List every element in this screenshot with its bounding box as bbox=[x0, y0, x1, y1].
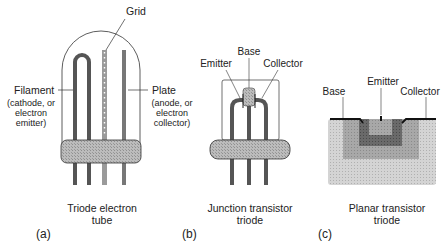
diagram-canvas: Grid Filament (cathode, or electron emit… bbox=[0, 0, 446, 245]
panel-tag-b: (b) bbox=[182, 227, 197, 241]
label-collector-c: Collector bbox=[400, 86, 440, 97]
label-grid: Grid bbox=[126, 5, 146, 17]
plate-electrode bbox=[122, 50, 126, 185]
caption-c-line1: Planar transistor bbox=[349, 202, 426, 214]
transistor-base bbox=[210, 140, 290, 159]
label-collector-b: Collector bbox=[263, 58, 303, 69]
panel-tag-c: (c) bbox=[318, 227, 332, 241]
label-base-c: Base bbox=[323, 86, 346, 97]
label-plate-sub-2: electron bbox=[156, 108, 188, 118]
label-plate-sub-1: (anode, or bbox=[151, 98, 192, 108]
tube-base bbox=[61, 140, 141, 163]
label-base-b: Base bbox=[238, 46, 261, 57]
label-emitter-b: Emitter bbox=[200, 58, 232, 69]
caption-c-line2: triode bbox=[374, 214, 400, 226]
panel-a-triode-tube: Grid Filament (cathode, or electron emit… bbox=[7, 5, 193, 241]
panel-c-planar-transistor: Base Emitter Collector Planar transistor… bbox=[318, 76, 440, 241]
junction-crystal bbox=[243, 88, 255, 106]
label-plate-sub-3: collector) bbox=[154, 118, 191, 128]
panel-tag-a: (a) bbox=[36, 227, 51, 241]
emitter-contact-well bbox=[369, 119, 392, 135]
label-filament-sub-3: emitter) bbox=[16, 118, 47, 128]
label-filament-sub-2: electron bbox=[15, 108, 47, 118]
label-plate: Plate bbox=[152, 84, 176, 96]
label-filament: Filament bbox=[14, 84, 54, 96]
panel-b-junction-transistor: Base Emitter Collector Junction transist… bbox=[182, 46, 303, 241]
filament bbox=[75, 55, 89, 185]
caption-b-line2: triode bbox=[237, 214, 263, 226]
label-emitter-c: Emitter bbox=[367, 76, 399, 87]
caption-a-line1: Triode electron bbox=[67, 202, 137, 214]
caption-b-line1: Junction transistor bbox=[207, 202, 293, 214]
caption-a-line2: tube bbox=[92, 214, 113, 226]
label-filament-sub-1: (cathode, or bbox=[7, 98, 55, 108]
